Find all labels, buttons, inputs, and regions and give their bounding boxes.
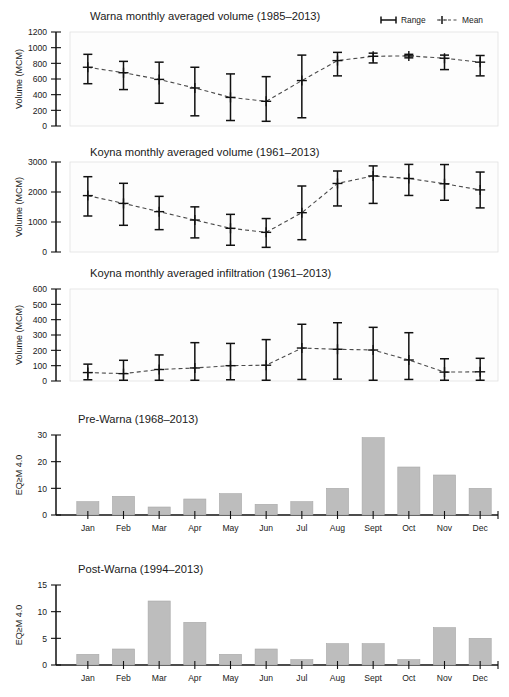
x-tick-label-nov: Nov <box>437 673 453 683</box>
chart-koyna-infiltration: Koyna monthly averaged infiltration (196… <box>0 263 509 393</box>
y-axis-title: EQ≥M 4.0 <box>14 455 24 495</box>
panel-title: Koyna monthly averaged infiltration (196… <box>90 267 332 279</box>
y-tick-label: 100 <box>33 361 48 371</box>
x-tick-label-mar: Mar <box>152 673 167 683</box>
x-tick-label-aug: Aug <box>330 523 346 533</box>
x-tick-label-apr: Apr <box>188 673 202 683</box>
panel-title: Koyna monthly averaged volume (1961–2013… <box>90 148 320 158</box>
x-tick-label-jul: Jul <box>296 523 307 533</box>
y-tick-label: 2000 <box>28 187 47 197</box>
y-tick-label: 600 <box>33 74 48 84</box>
y-tick-label: 10 <box>37 607 47 617</box>
bar-mar[interactable] <box>148 601 170 665</box>
y-tick-label: 0 <box>42 247 47 257</box>
bar-oct[interactable] <box>398 467 420 515</box>
y-tick-label: 0 <box>42 510 47 520</box>
y-tick-label: 5 <box>42 634 47 644</box>
x-tick-label-oct: Oct <box>402 523 416 533</box>
x-tick-label-aug: Aug <box>330 673 346 683</box>
plot-area <box>70 289 498 381</box>
x-tick-label-dec: Dec <box>473 523 489 533</box>
y-tick-label: 600 <box>33 284 48 294</box>
panel-koyna-volume: Koyna monthly averaged volume (1961–2013… <box>0 148 509 263</box>
y-tick-label: 1000 <box>28 217 47 227</box>
panel-title: Warna monthly averaged volume (1985–2013… <box>90 10 321 22</box>
y-tick-label: 0 <box>42 376 47 386</box>
y-tick-label: 0 <box>42 121 47 131</box>
y-tick-label: 800 <box>33 59 48 69</box>
y-tick-label: 500 <box>33 300 48 310</box>
y-tick-label: 0 <box>42 660 47 670</box>
y-tick-label: 200 <box>33 106 48 116</box>
x-tick-label-jun: Jun <box>259 523 273 533</box>
panel-post-warna: Post-Warna (1994–2013)051015EQ≥M 4.0JanF… <box>0 543 509 693</box>
chart-post-warna: Post-Warna (1994–2013)051015EQ≥M 4.0JanF… <box>0 543 509 693</box>
y-tick-label: 15 <box>37 580 47 590</box>
chart-warna-volume: Warna monthly averaged volume (1985–2013… <box>0 0 509 148</box>
legend-label-mean: Mean <box>462 15 483 25</box>
x-tick-label-oct: Oct <box>402 673 416 683</box>
x-tick-label-may: May <box>222 523 239 533</box>
x-tick-label-feb: Feb <box>116 673 131 683</box>
panel-koyna-infiltration: Koyna monthly averaged infiltration (196… <box>0 263 509 393</box>
panel-title: Pre-Warna (1968–2013) <box>78 413 199 425</box>
panel-pre-warna: Pre-Warna (1968–2013)0102030EQ≥M 4.0JanF… <box>0 393 509 543</box>
x-tick-label-jan: Jan <box>81 523 95 533</box>
x-tick-label-dec: Dec <box>473 673 489 683</box>
y-axis-title: Volume (MCM) <box>14 305 24 365</box>
bar-nov[interactable] <box>433 475 455 515</box>
x-tick-label-jun: Jun <box>259 673 273 683</box>
x-tick-label-may: May <box>222 673 239 683</box>
legend-label-range: Range <box>401 15 426 25</box>
y-tick-label: 400 <box>33 90 48 100</box>
y-tick-label: 10 <box>37 484 47 494</box>
chart-legend: RangeMean <box>381 15 483 25</box>
y-axis-title: Volume (MCM) <box>14 49 24 109</box>
y-axis-title: Volume (MCM) <box>14 177 24 237</box>
y-tick-label: 1000 <box>28 43 47 53</box>
x-tick-label-nov: Nov <box>437 523 453 533</box>
multi-panel-figure: Warna monthly averaged volume (1985–2013… <box>0 0 509 697</box>
chart-pre-warna: Pre-Warna (1968–2013)0102030EQ≥M 4.0JanF… <box>0 393 509 543</box>
y-tick-label: 1200 <box>28 27 47 37</box>
y-tick-label: 300 <box>33 330 48 340</box>
error-bar-icon <box>381 17 396 24</box>
y-tick-label: 30 <box>37 430 47 440</box>
plot-area <box>70 162 498 252</box>
x-tick-label-jul: Jul <box>296 673 307 683</box>
x-tick-label-apr: Apr <box>188 523 202 533</box>
y-tick-label: 400 <box>33 315 48 325</box>
x-tick-label-mar: Mar <box>152 523 167 533</box>
chart-koyna-volume: Koyna monthly averaged volume (1961–2013… <box>0 148 509 263</box>
bar-nov[interactable] <box>433 628 455 665</box>
x-tick-label-sept: Sept <box>364 673 382 683</box>
y-tick-label: 200 <box>33 346 48 356</box>
x-tick-label-feb: Feb <box>116 523 131 533</box>
y-tick-label: 3000 <box>28 157 47 167</box>
y-tick-label: 20 <box>37 457 47 467</box>
y-axis-title: EQ≥M 4.0 <box>14 605 24 645</box>
x-tick-label-sept: Sept <box>364 523 382 533</box>
bar-apr[interactable] <box>184 622 206 665</box>
panel-title: Post-Warna (1994–2013) <box>78 563 203 575</box>
dashed-plus-marker-icon <box>437 16 457 24</box>
panel-warna-volume: Warna monthly averaged volume (1985–2013… <box>0 0 509 148</box>
x-tick-label-jan: Jan <box>81 673 95 683</box>
bar-sept[interactable] <box>362 438 384 515</box>
plot-area <box>70 32 498 126</box>
